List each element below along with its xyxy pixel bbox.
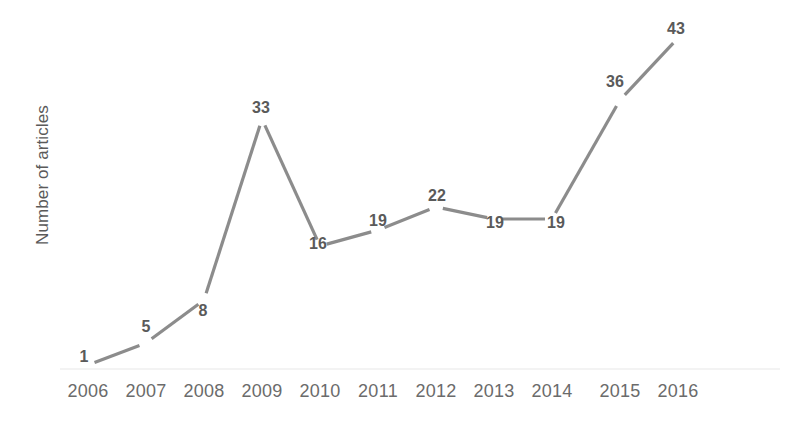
x-tick-label-2009: 2009 xyxy=(241,381,282,402)
data-point-label: 43 xyxy=(667,20,685,38)
x-axis-tick-labels: 2006200720082009201020112012201320142015… xyxy=(0,381,788,409)
line-segment xyxy=(265,125,317,239)
line-segment xyxy=(327,232,372,244)
plot-area: 1583316192219193643 xyxy=(0,0,788,426)
line-segment xyxy=(95,345,140,362)
line-segment xyxy=(443,208,487,217)
data-point-label: 19 xyxy=(369,212,387,230)
x-tick-label-2007: 2007 xyxy=(125,381,166,402)
data-point-label: 1 xyxy=(79,348,88,366)
x-tick-label-2011: 2011 xyxy=(358,381,398,402)
data-point-label: 8 xyxy=(198,302,207,320)
x-tick-label-2014: 2014 xyxy=(531,381,572,402)
data-point-label: 36 xyxy=(606,73,624,91)
x-tick-label-2016: 2016 xyxy=(657,381,698,402)
x-tick-label-2006: 2006 xyxy=(67,381,108,402)
line-segment xyxy=(555,106,616,213)
x-tick-label-2008: 2008 xyxy=(183,381,224,402)
chart-line-svg xyxy=(0,0,788,426)
line-chart: Number of articles 1583316192219193643 2… xyxy=(0,0,788,426)
line-segment xyxy=(385,210,430,228)
data-point-label: 22 xyxy=(428,187,446,205)
x-tick-label-2012: 2012 xyxy=(415,381,456,402)
data-point-label: 5 xyxy=(141,318,150,336)
line-segment xyxy=(625,43,673,95)
data-point-label: 16 xyxy=(309,235,327,253)
line-segment xyxy=(206,126,260,294)
x-tick-label-2010: 2010 xyxy=(299,381,340,402)
x-tick-label-2015: 2015 xyxy=(599,381,640,402)
data-point-label: 19 xyxy=(547,214,565,232)
x-tick-label-2013: 2013 xyxy=(473,381,514,402)
line-segment xyxy=(152,304,199,339)
data-point-label: 19 xyxy=(486,214,504,232)
data-point-label: 33 xyxy=(252,99,270,117)
